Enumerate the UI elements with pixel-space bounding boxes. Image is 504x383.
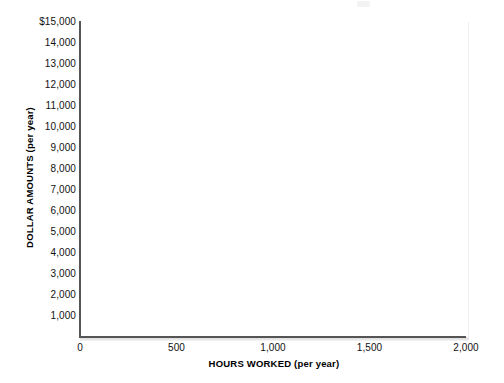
y-axis-tick-label: 11,000	[2, 101, 76, 111]
x-axis-tick-label: 1,000	[238, 342, 308, 353]
y-axis-tick-label: 12,000	[2, 80, 76, 90]
y-axis-tick-label: 14,000	[2, 38, 76, 48]
x-axis-tick-label: 500	[142, 342, 212, 353]
y-axis-tick-label: 7,000	[2, 185, 76, 195]
plot-area	[80, 22, 468, 337]
x-axis-tick-label: 1,500	[335, 342, 405, 353]
y-axis-tick-label: 9,000	[2, 143, 76, 153]
plot-edge-shadow-bottom	[80, 338, 469, 341]
y-axis-title: DOLLAR AMOUNTS (per year)	[24, 83, 35, 273]
y-axis-tick-labels: $15,00014,00013,00012,00011,00010,0009,0…	[0, 0, 76, 383]
y-axis-tick-label: 4,000	[2, 248, 76, 258]
y-axis-line	[79, 21, 81, 338]
x-axis-title: HOURS WORKED (per year)	[80, 358, 468, 369]
y-axis-tick-label: 1,000	[2, 311, 76, 321]
scan-artifact	[357, 1, 370, 7]
y-axis-tick-label: 13,000	[2, 59, 76, 69]
y-axis-tick-label: 2,000	[2, 290, 76, 300]
y-axis-tick-label: 6,000	[2, 206, 76, 216]
x-axis-tick-label: 0	[45, 342, 115, 353]
y-axis-tick-label: 3,000	[2, 269, 76, 279]
y-axis-tick-label: $15,000	[2, 17, 76, 27]
y-axis-tick-label: 5,000	[2, 227, 76, 237]
x-axis-line	[79, 336, 466, 338]
x-axis-tick-label: 2,000	[431, 342, 501, 353]
y-axis-tick-label: 10,000	[2, 122, 76, 132]
x-axis-tick-labels: 05001,0001,5002,000	[0, 342, 504, 356]
y-axis-tick-label: 8,000	[2, 164, 76, 174]
chart-figure: $15,00014,00013,00012,00011,00010,0009,0…	[0, 0, 504, 383]
